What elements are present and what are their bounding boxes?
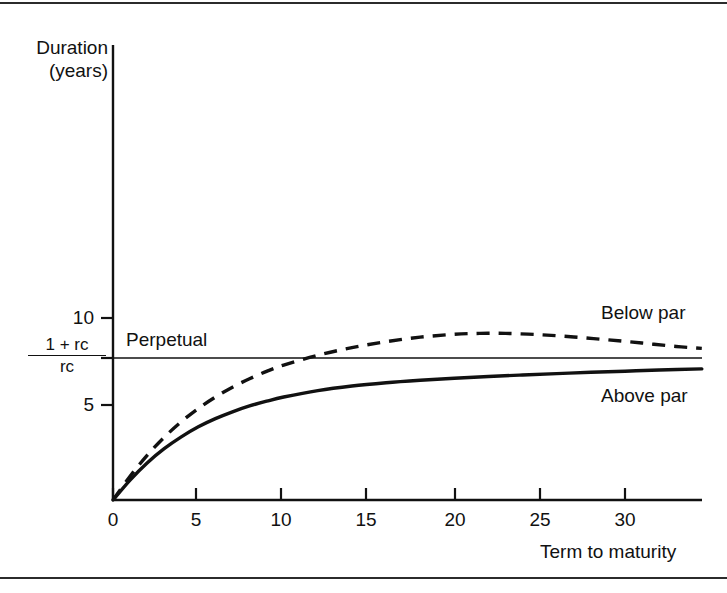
annotation-below-par: Below par [601,301,686,324]
y-axis-title-line1: Duration [36,37,108,58]
y-axis-title: Duration (years) [16,36,108,82]
figure-page: Duration (years) Term to maturity 10 5 1… [0,0,727,593]
y-tick-label-10: 10 [46,306,94,329]
y-tick-label-perpetual-fraction: 1 + rc rc [28,335,106,376]
x-tick-label-15: 15 [346,508,386,531]
duration-vs-term-chart [0,0,727,593]
x-tick-label-30: 30 [605,508,645,531]
y-axis-title-line2: (years) [16,59,108,82]
x-tick-label-10: 10 [261,508,301,531]
fraction-denominator: rc [28,356,106,376]
x-axis-title: Term to maturity [540,540,676,563]
annotation-above-par: Above par [601,384,688,407]
x-tick-label-0: 0 [93,508,133,531]
y-tick-label-5: 5 [46,393,94,416]
annotation-perpetual: Perpetual [126,328,207,351]
x-tick-label-25: 25 [520,508,560,531]
x-tick-label-5: 5 [176,508,216,531]
fraction-numerator: 1 + rc [28,335,106,356]
x-tick-label-20: 20 [435,508,475,531]
